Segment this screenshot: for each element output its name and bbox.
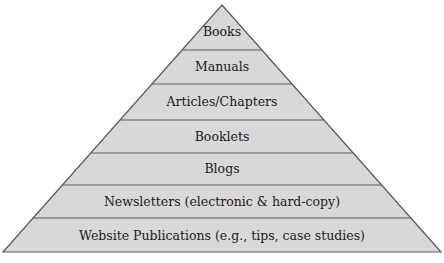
tier-label-manuals: Manuals [195, 59, 249, 74]
tier-label-books: Books [203, 24, 241, 39]
tier-label-blogs: Blogs [204, 161, 239, 176]
publication-pyramid: Books Manuals Articles/Chapters Booklets… [0, 0, 444, 263]
tier-label-articles-chapters: Articles/Chapters [166, 94, 278, 109]
tier-label-website-publications: Website Publications (e.g., tips, case s… [79, 228, 365, 243]
tier-label-booklets: Booklets [195, 129, 250, 144]
tier-label-newsletters: Newsletters (electronic & hard-copy) [104, 194, 340, 209]
